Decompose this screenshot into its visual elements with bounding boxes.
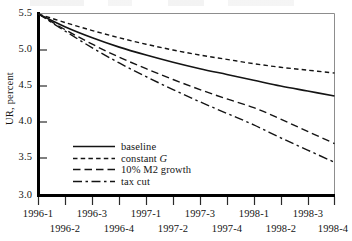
x-tick-label-1997-4: 1997-4 <box>204 223 250 234</box>
series-line-constant-g <box>39 14 335 73</box>
legend-key-dash-dot-line <box>72 176 116 187</box>
x-tick-label-1996-2: 1996-2 <box>42 223 88 234</box>
x-axis-ticks <box>39 197 335 205</box>
x-tick-label-1997-1: 1997-1 <box>123 208 169 219</box>
y-tick-label-3-5: 3.5 <box>2 152 32 162</box>
x-tick-label-1998-4: 1998-4 <box>310 223 352 234</box>
x-tick-label-1996-1: 1996-1 <box>15 208 61 219</box>
y-tick-label-3-0: 3.0 <box>2 190 32 200</box>
legend-label-constant-g: constant G <box>121 153 167 165</box>
y-axis-title: UR, percent <box>4 63 15 135</box>
legend-entry-baseline: baseline <box>72 141 191 153</box>
y-tick-label-5-0: 5.0 <box>2 44 32 54</box>
legend-label-m2-growth: 10% M2 growth <box>121 164 191 176</box>
legend-label-constant-g-symbol: G <box>160 153 168 164</box>
legend-entry-constant-g: constant G <box>72 153 191 165</box>
chart-legend: baseline constant G 10% M2 growth tax cu… <box>72 141 191 187</box>
legend-entry-m2-growth: 10% M2 growth <box>72 164 191 176</box>
chart-figure: 5.5 5.0 4.5 4.0 3.5 3.0 UR, percent 1996… <box>0 0 352 241</box>
x-tick-label-1998-2: 1998-2 <box>258 223 304 234</box>
x-tick-label-1997-2: 1997-2 <box>150 223 196 234</box>
x-tick-label-1998-1: 1998-1 <box>231 208 277 219</box>
x-tick-label-1997-3: 1997-3 <box>177 208 223 219</box>
legend-key-solid-line <box>72 141 116 152</box>
line-chart-plot <box>0 0 352 241</box>
x-tick-label-1998-3: 1998-3 <box>285 208 331 219</box>
legend-label-baseline: baseline <box>121 141 156 153</box>
legend-label-tax-cut: tax cut <box>121 176 150 188</box>
series-line-baseline <box>39 14 335 96</box>
legend-key-dashed-line <box>72 164 116 175</box>
y-tick-label-5-5: 5.5 <box>2 8 32 18</box>
y-axis-ticks <box>40 50 47 158</box>
legend-key-dotted-line <box>72 153 116 164</box>
legend-entry-tax-cut: tax cut <box>72 176 191 188</box>
x-tick-label-1996-3: 1996-3 <box>69 208 115 219</box>
x-tick-label-1996-4: 1996-4 <box>96 223 142 234</box>
legend-label-constant-g-text: constant <box>121 153 160 164</box>
